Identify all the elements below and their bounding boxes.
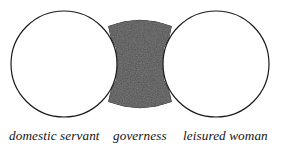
region-governess-shape (109, 20, 172, 107)
region-domestic-servant-circle (11, 11, 117, 117)
label-governess: governess (113, 126, 167, 145)
region-leisured-woman-circle (163, 11, 269, 117)
venn-diagram-figure: domestic servant governess leisured woma… (0, 0, 281, 151)
label-domestic-servant: domestic servant (9, 126, 100, 145)
region-labels: domestic servant governess leisured woma… (0, 126, 281, 151)
label-leisured-woman: leisured woman (183, 126, 268, 145)
